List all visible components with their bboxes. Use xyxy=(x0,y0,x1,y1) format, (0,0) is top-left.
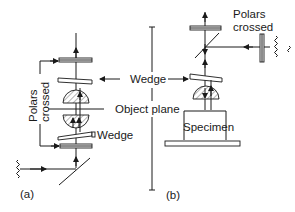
object-plane-label: Object plane xyxy=(115,103,180,115)
specimen-label: Specimen xyxy=(183,121,234,133)
wedge-lower-a xyxy=(58,132,92,140)
polars-crossed-label-b-line1: Polars xyxy=(233,8,266,20)
light-source-icon xyxy=(275,36,278,57)
stage-b xyxy=(165,141,240,146)
mirror-a xyxy=(59,158,90,185)
polars-crossed-label-a-line1: Polars xyxy=(27,89,39,122)
light-source-icon-part xyxy=(288,46,291,52)
polars-crossed-label-b-line2: crossed xyxy=(233,21,273,33)
wedge-tab xyxy=(92,132,95,137)
panel-b-label: (b) xyxy=(166,189,180,201)
lens-hatch xyxy=(63,90,89,103)
beam-splitter-b xyxy=(195,33,219,58)
wedge-b xyxy=(190,74,222,82)
light-source-icon xyxy=(17,160,20,178)
panel-b: Polars crossed Specimen (b) xyxy=(165,8,291,201)
polars-bracket-bottom-a xyxy=(40,124,59,146)
lens-hatch xyxy=(193,86,219,99)
wedge-label-a: Wedge xyxy=(97,129,133,141)
panel-a-label: (a) xyxy=(20,188,34,200)
polars-bracket-top-a xyxy=(40,61,58,74)
lens-hatch xyxy=(63,115,89,128)
wedge-label-center: Wedge xyxy=(130,73,166,85)
wedge-upper-a xyxy=(58,78,92,84)
center-labels: Wedge Object plane xyxy=(100,27,188,190)
diagram-canvas: Polars crossed Wedge (a) Wedge Object pl… xyxy=(0,0,295,212)
panel-a: Polars crossed Wedge (a) xyxy=(17,33,134,200)
polars-crossed-label-a-line2: crossed xyxy=(39,82,51,122)
